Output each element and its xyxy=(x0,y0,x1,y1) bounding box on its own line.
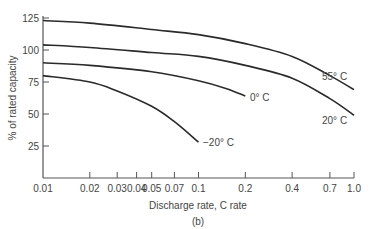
x-tick-label: 0.02 xyxy=(80,183,100,194)
y-tick-label: 75 xyxy=(28,77,40,88)
series-label: 0° C xyxy=(250,92,270,103)
curves xyxy=(43,21,354,143)
axes: 2550751001250.010.020.030.040.050.070.10… xyxy=(22,13,361,195)
figure-caption: (b) xyxy=(192,216,204,227)
x-tick-label: 0.7 xyxy=(323,183,337,194)
x-tick-label: 0.4 xyxy=(285,183,299,194)
y-tick-label: 125 xyxy=(22,13,39,24)
series-label: 55° C xyxy=(322,71,347,82)
x-axis-title: Discharge rate, C rate xyxy=(149,200,247,211)
x-tick-label: 0.07 xyxy=(165,183,185,194)
x-tick-label: 0.03 xyxy=(107,183,127,194)
y-axis-title: % of rated capacity xyxy=(7,55,18,140)
series-label: 20° C xyxy=(322,115,347,126)
y-tick-label: 25 xyxy=(28,141,40,152)
series-label: −20° C xyxy=(203,137,234,148)
y-tick-label: 100 xyxy=(22,45,39,56)
x-tick-label: 0.05 xyxy=(142,183,162,194)
x-tick-label: 0.1 xyxy=(192,183,206,194)
curve-55c xyxy=(43,21,354,90)
series-labels: 55° C20° C0° C−20° C xyxy=(203,71,347,148)
curve-20c xyxy=(43,76,199,143)
y-tick-label: 50 xyxy=(28,109,40,120)
battery-capacity-chart: 2550751001250.010.020.030.040.050.070.10… xyxy=(0,0,372,229)
x-tick-label: 1.0 xyxy=(347,183,361,194)
x-tick-label: 0.01 xyxy=(33,183,53,194)
x-tick-label: 0.2 xyxy=(238,183,252,194)
